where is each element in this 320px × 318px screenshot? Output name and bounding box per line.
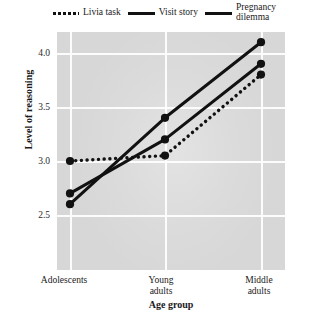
legend-item-visit-story: Visit story: [128, 2, 198, 18]
series-container: [57, 32, 285, 270]
legend-item-livia-task: Livia task: [52, 2, 121, 18]
data-point: [257, 38, 265, 46]
legend-solid-line-icon: [128, 8, 155, 18]
legend-item-label: Visit story: [159, 8, 198, 18]
data-point: [161, 135, 169, 143]
x-tick-label: Middle adults: [226, 275, 292, 297]
y-tick-label: 2.5: [22, 210, 50, 220]
x-tick-label: Adolescents: [24, 275, 104, 286]
data-point: [257, 71, 265, 79]
series-line: [70, 64, 261, 194]
legend-item-label: Pregnancy dilemma: [236, 3, 276, 23]
data-point: [161, 152, 169, 160]
legend-dotted-line-icon: [52, 8, 79, 18]
series-line: [70, 42, 261, 204]
data-point: [66, 157, 74, 165]
legend-solid-line-icon: [205, 8, 232, 18]
data-point: [257, 60, 265, 68]
y-tick-label: 4.0: [22, 48, 50, 58]
plot-area: [57, 32, 285, 270]
data-point: [161, 114, 169, 122]
x-tick-label: Young adults: [126, 275, 196, 297]
legend-item-label: Livia task: [83, 8, 121, 18]
chart-legend: Livia task Visit story Pregnancy dilemma: [52, 2, 294, 30]
data-point: [66, 189, 74, 197]
data-point: [66, 200, 74, 208]
y-tick-label: 3.5: [22, 102, 50, 112]
x-axis-title: Age group: [57, 299, 285, 310]
y-tick-label: 3.0: [22, 156, 50, 166]
legend-item-pregnancy-dilemma: Pregnancy dilemma: [205, 2, 276, 23]
